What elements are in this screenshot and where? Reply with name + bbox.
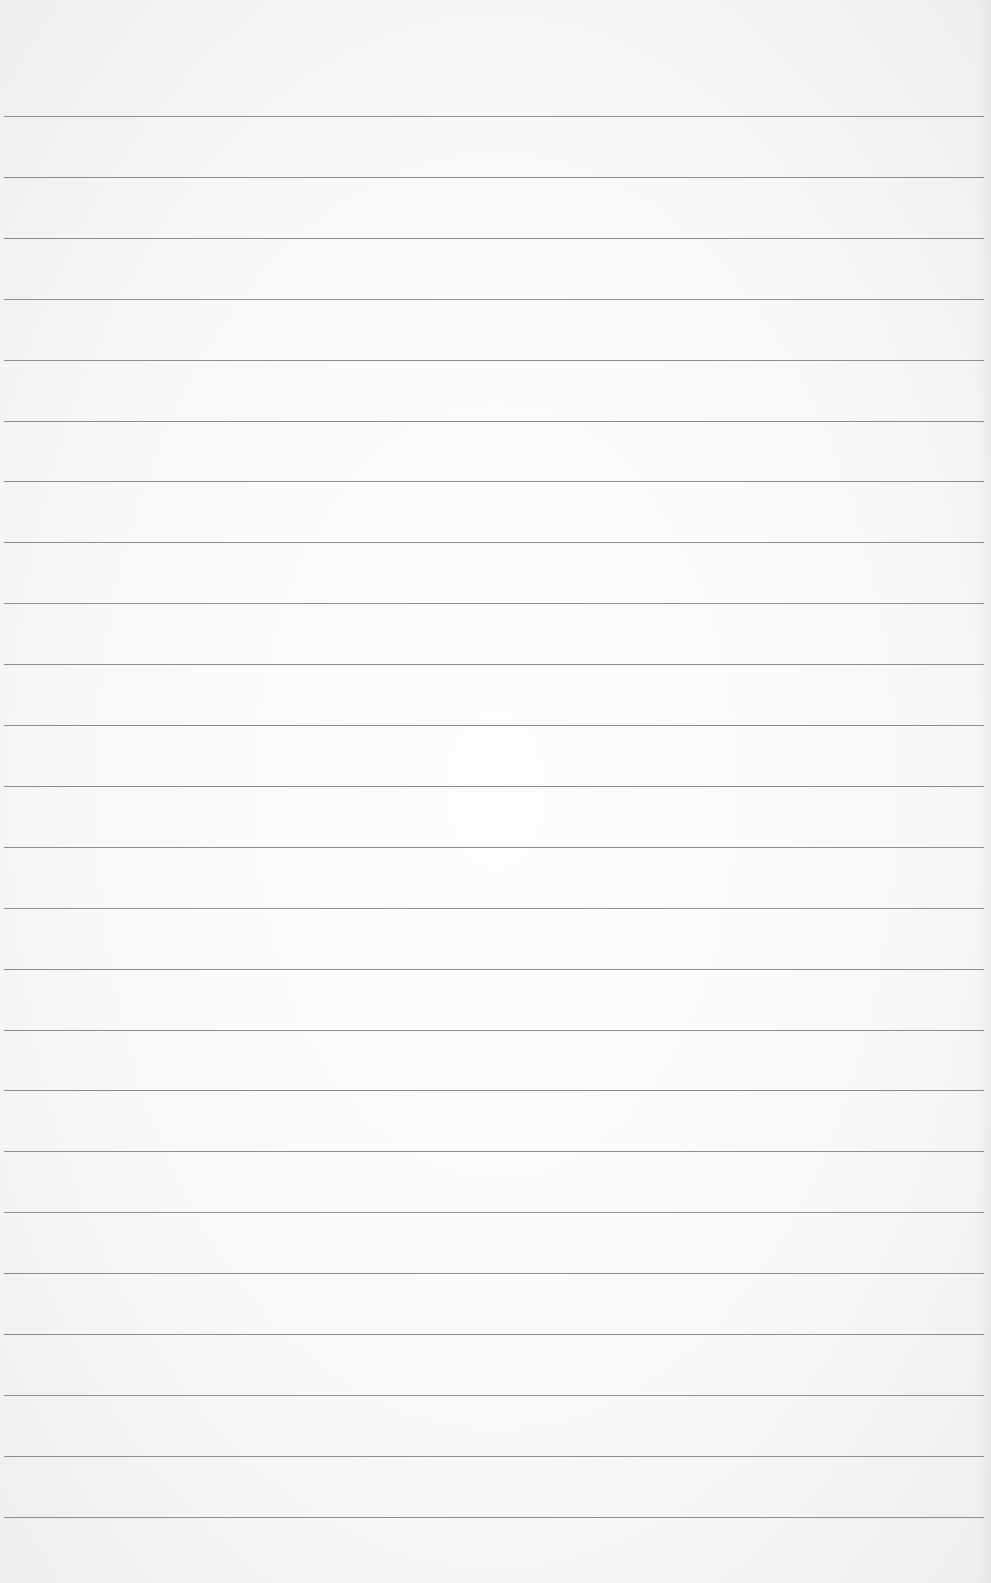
ruled-line xyxy=(4,1212,984,1213)
ruled-line xyxy=(4,1334,984,1335)
ruled-line xyxy=(4,238,984,239)
ruled-line xyxy=(4,299,984,300)
ruled-line xyxy=(4,1273,984,1274)
ruled-line xyxy=(4,360,984,361)
ruled-line xyxy=(4,177,984,178)
ruled-line xyxy=(4,1090,984,1091)
ruled-line xyxy=(4,786,984,787)
ruled-line xyxy=(4,421,984,422)
ruled-line xyxy=(4,1151,984,1152)
ruled-line xyxy=(4,603,984,604)
ruled-line xyxy=(4,908,984,909)
ruled-line xyxy=(4,1456,984,1457)
ruled-line xyxy=(4,542,984,543)
ruled-line xyxy=(4,1030,984,1031)
ruled-line xyxy=(4,1517,984,1518)
ruled-line xyxy=(4,847,984,848)
ruled-line xyxy=(4,725,984,726)
ruled-line xyxy=(4,969,984,970)
lined-paper-sheet xyxy=(0,0,991,1583)
ruled-line xyxy=(4,481,984,482)
ruled-line xyxy=(4,116,984,117)
ruled-line xyxy=(4,1395,984,1396)
ruled-line xyxy=(4,664,984,665)
